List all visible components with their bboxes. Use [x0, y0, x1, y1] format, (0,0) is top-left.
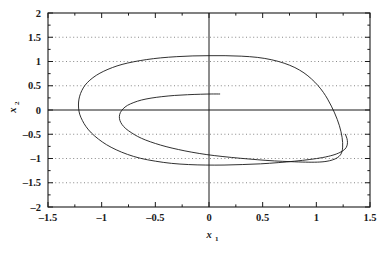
x-tick-label: –1.5: [38, 212, 57, 223]
y-tick-label: 0.5: [28, 80, 41, 91]
x-tick-label: –0.5: [145, 212, 164, 223]
y-tick-label: 0: [36, 105, 41, 116]
chart-background: [0, 0, 389, 254]
y-tick-label: –1.5: [22, 177, 41, 188]
y-tick-label: –0.5: [22, 129, 41, 140]
svg-text:2: 2: [13, 101, 21, 105]
y-tick-label: –2: [30, 202, 42, 213]
x-tick-label: 1: [314, 212, 319, 223]
y-tick-label: –1: [30, 153, 42, 164]
x-tick-label: 1.5: [363, 212, 376, 223]
svg-text:x: x: [7, 107, 18, 113]
y-tick-label: 2: [36, 8, 41, 19]
x-tick-label: 0.5: [256, 212, 269, 223]
svg-text:x: x: [205, 229, 211, 240]
y-tick-label: 1: [36, 56, 41, 67]
phase-portrait-chart: –1.5–1–0.500.511.5 –2–1.5–1–0.500.511.52…: [0, 0, 389, 254]
y-tick-label: 1.5: [28, 32, 41, 43]
x-tick-label: 0: [206, 212, 211, 223]
svg-text:1: 1: [215, 235, 219, 243]
figure-container: –1.5–1–0.500.511.5 –2–1.5–1–0.500.511.52…: [0, 0, 389, 254]
x-tick-label: –1: [95, 212, 107, 223]
